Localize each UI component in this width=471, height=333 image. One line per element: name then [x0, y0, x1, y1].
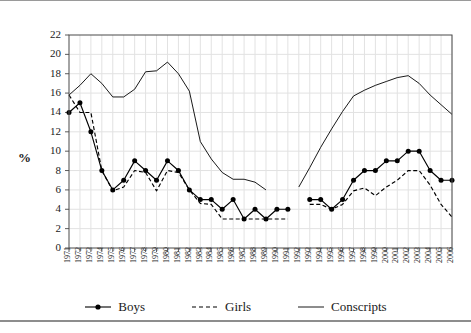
- legend-item-girls: Girls: [191, 299, 251, 315]
- legend-label-boys: Boys: [118, 299, 145, 315]
- data-point: [406, 149, 411, 154]
- data-point: [121, 178, 126, 183]
- data-point: [285, 207, 290, 212]
- data-point: [439, 178, 444, 183]
- series-girls: [69, 95, 452, 219]
- legend-label-conscripts: Conscripts: [331, 299, 387, 315]
- data-point: [231, 197, 236, 202]
- data-point: [99, 168, 104, 173]
- data-point: [428, 168, 433, 173]
- data-point: [209, 197, 214, 202]
- plot-area: [0, 0, 471, 333]
- data-point: [373, 168, 378, 173]
- data-point: [77, 100, 82, 105]
- boys-line-marker-icon: [84, 301, 112, 313]
- data-point: [220, 207, 225, 212]
- data-point: [274, 207, 279, 212]
- girls-dashed-line-icon: [191, 301, 219, 313]
- legend-label-girls: Girls: [225, 299, 251, 315]
- chart-legend: Boys Girls Conscripts: [0, 296, 471, 318]
- data-point: [340, 197, 345, 202]
- data-point: [165, 158, 170, 163]
- data-point: [417, 149, 422, 154]
- data-point: [253, 207, 258, 212]
- plot-border: [69, 35, 452, 248]
- bottom-divider: [0, 320, 471, 322]
- data-point: [395, 158, 400, 163]
- series-boys: [67, 100, 455, 221]
- data-point: [88, 129, 93, 134]
- data-point: [318, 197, 323, 202]
- data-point: [154, 178, 159, 183]
- legend-item-conscripts: Conscripts: [297, 299, 387, 315]
- legend-item-boys: Boys: [84, 299, 145, 315]
- conscripts-line-icon: [297, 301, 325, 313]
- data-point: [132, 158, 137, 163]
- data-series-layer: [67, 62, 455, 221]
- data-point: [351, 178, 356, 183]
- data-point: [384, 158, 389, 163]
- chart-container: % 0246810121416182022 197119721973197419…: [0, 0, 471, 333]
- data-point: [362, 168, 367, 173]
- data-point: [307, 197, 312, 202]
